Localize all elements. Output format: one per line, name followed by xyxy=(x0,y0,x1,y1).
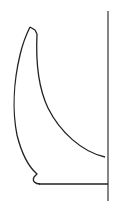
profile-drawing-canvas xyxy=(0,0,119,203)
inner-profile xyxy=(37,34,105,157)
profile-drawing xyxy=(0,0,119,203)
